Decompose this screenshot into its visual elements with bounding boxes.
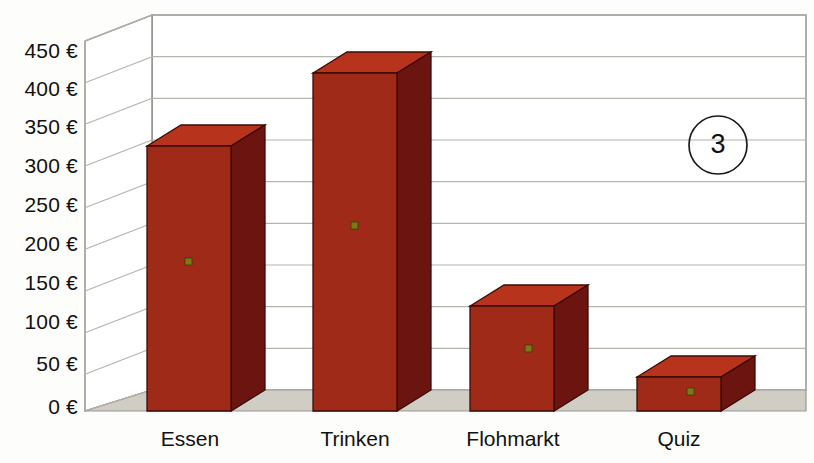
- bar-essen[interactable]: [147, 125, 265, 411]
- bar-chart-3d: [0, 0, 814, 463]
- y-tick-0: 0 €: [0, 396, 78, 417]
- bar-trinken-front: [313, 73, 397, 411]
- bar-flohmarkt-marker: [525, 345, 532, 352]
- y-tick-400: 400 €: [0, 78, 78, 99]
- bar-essen-side: [231, 125, 265, 411]
- bar-essen-marker: [185, 258, 192, 265]
- x-tick-trinken: Trinken: [295, 428, 415, 449]
- bar-flohmarkt[interactable]: [470, 285, 588, 411]
- bar-trinken-side: [397, 52, 431, 411]
- x-tick-essen: Essen: [130, 428, 250, 449]
- y-tick-200: 200 €: [0, 233, 78, 254]
- figure-number-label: 3: [690, 131, 746, 158]
- y-tick-50: 50 €: [0, 353, 78, 374]
- chart-figure: 450 € 400 € 350 € 300 € 250 € 200 € 150 …: [0, 0, 814, 463]
- bar-trinken-marker: [351, 222, 358, 229]
- bar-flohmarkt-side: [554, 285, 588, 411]
- bar-quiz-front: [637, 377, 721, 411]
- bar-flohmarkt-front: [470, 306, 554, 411]
- x-tick-quiz: Quiz: [619, 428, 739, 449]
- bar-quiz-marker: [687, 388, 694, 395]
- y-tick-450: 450 €: [0, 40, 78, 61]
- y-axis-labels: 450 € 400 € 350 € 300 € 250 € 200 € 150 …: [0, 0, 78, 463]
- y-tick-300: 300 €: [0, 155, 78, 176]
- y-tick-150: 150 €: [0, 272, 78, 293]
- bar-trinken[interactable]: [313, 52, 431, 411]
- x-tick-flohmarkt: Flohmarkt: [443, 428, 583, 449]
- y-tick-350: 350 €: [0, 116, 78, 137]
- y-tick-100: 100 €: [0, 311, 78, 332]
- bar-essen-front: [147, 146, 231, 411]
- y-tick-250: 250 €: [0, 194, 78, 215]
